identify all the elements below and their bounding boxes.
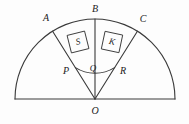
geometry-figure: A B C P Q R O S K (0, 0, 189, 124)
vertex-label-q: Q (90, 64, 97, 73)
vertex-label-c: C (140, 14, 147, 24)
vertex-label-o: O (91, 106, 98, 116)
radius-line-OA (53, 31, 95, 99)
vertex-label-p: P (63, 66, 69, 76)
vertex-label-b: B (92, 4, 98, 14)
vertex-label-r: R (120, 66, 126, 76)
radius-line-OC (95, 31, 137, 99)
vertex-label-a: A (43, 13, 49, 23)
